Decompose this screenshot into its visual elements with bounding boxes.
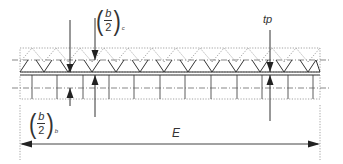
fraction-numerator: b	[104, 8, 112, 21]
tp-up-arrowhead-icon	[267, 75, 274, 85]
e-left-arrowhead-icon	[20, 141, 32, 148]
solid-v-shapes	[20, 60, 320, 72]
tp-down-arrowhead-icon	[267, 62, 274, 72]
label-b-half-b: ( b 2 ) b	[29, 111, 58, 136]
lower-layer-outline	[20, 75, 320, 99]
fraction-numerator: b	[37, 111, 45, 124]
e-right-arrowhead-icon	[308, 141, 320, 148]
b2b-arrowhead-icon	[67, 88, 74, 98]
fraction-denominator: 2	[38, 124, 44, 136]
b2c-right-arrowhead-icon	[92, 50, 99, 60]
subscript: c	[122, 25, 125, 31]
close-paren: )	[113, 7, 120, 35]
close-paren: )	[46, 110, 53, 138]
fraction: b 2	[104, 8, 112, 33]
open-paren: (	[96, 7, 103, 35]
label-b-half-c: ( b 2 ) c	[96, 8, 125, 33]
fraction-denominator: 2	[105, 21, 111, 33]
center-up-arrowhead-icon	[92, 75, 99, 85]
label-e: E	[172, 127, 180, 139]
fraction: b 2	[37, 111, 45, 136]
subscript: b	[55, 128, 58, 134]
open-paren: (	[29, 110, 36, 138]
label-tp: tp	[263, 14, 272, 25]
